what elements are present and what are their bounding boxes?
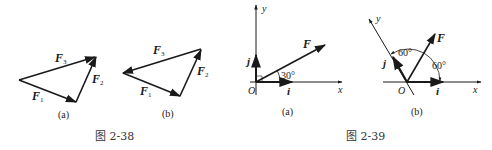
label-f3: F3 bbox=[152, 43, 165, 58]
figure-caption-2-39: 图 2-39 bbox=[346, 130, 385, 143]
fig-2-39b: y x O j i F 60° 60° (b) bbox=[369, 13, 481, 118]
force-label: F bbox=[302, 37, 311, 51]
vector-f1 bbox=[19, 80, 76, 102]
fig-2-38a: F3 F2 F1 (a) bbox=[19, 51, 104, 121]
x-axis-label: x bbox=[472, 84, 478, 95]
origin-label: O bbox=[398, 85, 405, 96]
y-axis-label: y bbox=[375, 13, 381, 24]
label-f1: F1 bbox=[31, 89, 44, 104]
i-label: i bbox=[436, 85, 440, 97]
fig-2-38b: F3 F2 F1 (b) bbox=[123, 43, 209, 120]
angle-label-60-left: 60° bbox=[398, 47, 412, 58]
label-f2: F2 bbox=[91, 72, 104, 87]
j-label: j bbox=[245, 55, 251, 67]
y-axis-label: y bbox=[261, 3, 267, 14]
x-axis-label: x bbox=[337, 84, 343, 95]
subfig-label-b: (b) bbox=[162, 108, 174, 120]
subfig-label-a: (a) bbox=[58, 109, 69, 121]
subfig-label-b: (b) bbox=[411, 106, 423, 118]
force-label: F bbox=[436, 31, 445, 45]
angle-label-30: 30° bbox=[281, 70, 295, 81]
figure-caption-2-38: 图 2-38 bbox=[95, 130, 134, 143]
angle-arc-30 bbox=[277, 70, 280, 82]
label-f1: F1 bbox=[139, 84, 152, 99]
subfig-label-a: (a) bbox=[282, 106, 293, 118]
fig-2-39a: y x O j i F 30° (a) bbox=[245, 3, 343, 118]
i-label: i bbox=[287, 85, 291, 97]
origin-label: O bbox=[248, 85, 255, 96]
label-f3: F3 bbox=[54, 51, 67, 66]
unit-vector-j bbox=[393, 57, 407, 82]
label-f2: F2 bbox=[196, 64, 209, 79]
angle-label-60-right: 60° bbox=[432, 60, 446, 71]
j-label: j bbox=[381, 57, 387, 69]
